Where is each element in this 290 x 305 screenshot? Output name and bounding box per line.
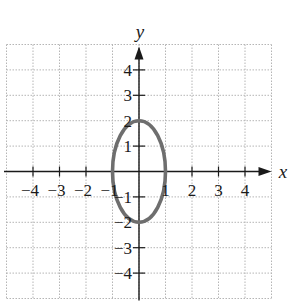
y-tick-label: 1	[124, 137, 133, 156]
y-axis-label: y	[134, 21, 145, 42]
y-tick-label: 2	[124, 112, 133, 131]
y-tick-label: −1	[114, 188, 132, 207]
x-tick-label: −3	[47, 181, 65, 200]
y-tick-label: 4	[124, 61, 133, 80]
x-tick-label: −4	[21, 181, 40, 200]
axes	[4, 47, 272, 301]
x-tick-label: 2	[188, 181, 197, 200]
coordinate-plane: −4−3−2−11234−4−3−2−11234 x y	[0, 0, 290, 305]
y-tick-label: −3	[114, 239, 132, 258]
y-tick-label: −4	[114, 264, 133, 283]
x-tick-label: −2	[74, 181, 92, 200]
x-tick-label: 3	[214, 181, 223, 200]
x-tick-label: 1	[161, 181, 170, 200]
x-axis-arrow-icon	[259, 167, 272, 176]
y-axis-arrow-icon	[135, 47, 144, 60]
x-axis-label: x	[278, 161, 288, 182]
y-tick-label: 3	[124, 86, 133, 105]
y-tick-label: −2	[114, 213, 132, 232]
x-tick-label: 4	[241, 181, 250, 200]
